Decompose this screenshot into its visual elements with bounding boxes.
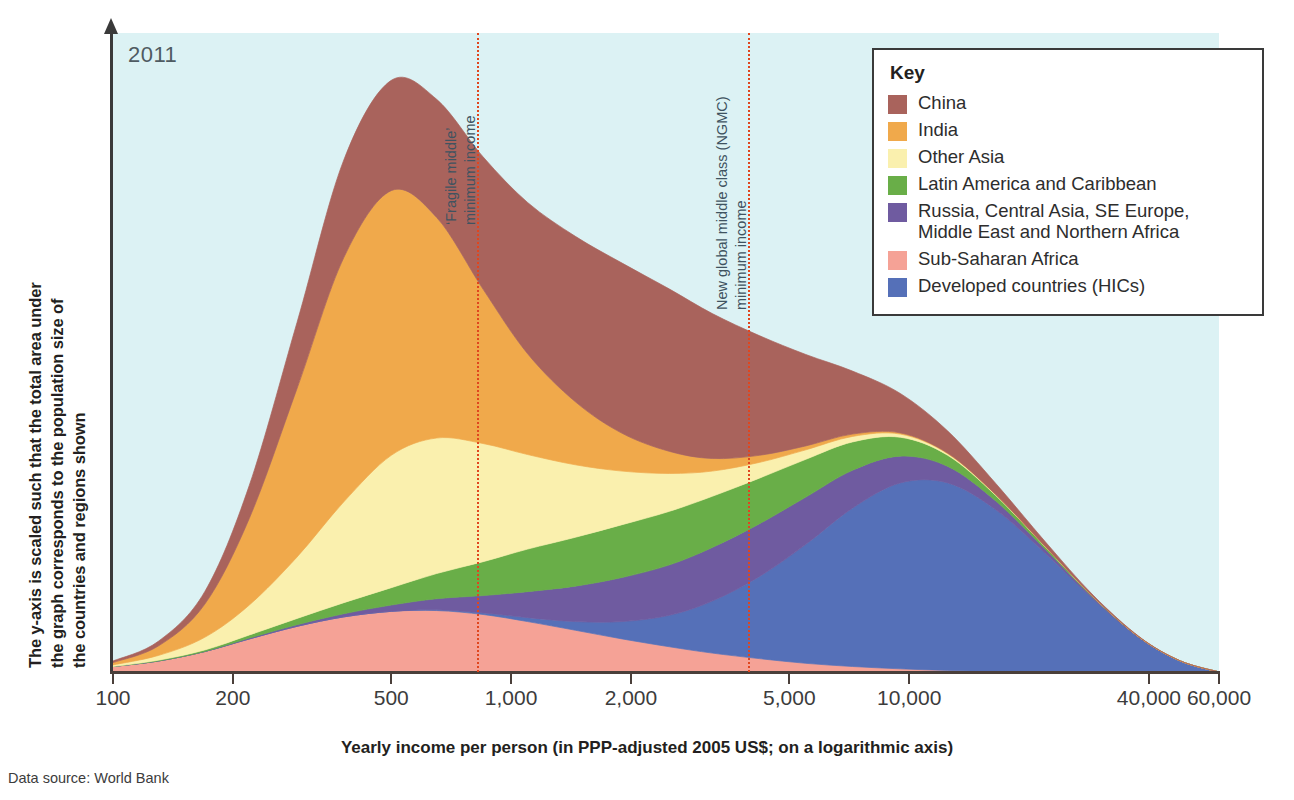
legend-item-label: Latin America and Caribbean [918,173,1157,194]
x-tick-200 [232,674,234,684]
legend-swatch-icon [888,278,907,297]
legend-item[interactable]: China [888,92,1250,114]
x-axis-line [110,671,1220,674]
legend-rows: ChinaIndiaOther AsiaLatin America and Ca… [888,92,1250,297]
source-note: Data source: World Bank [8,770,169,786]
x-tick-2000 [630,674,632,684]
x-tick-label-1000: 1,000 [485,686,538,710]
legend-swatch-icon [888,95,907,114]
x-tick-100 [112,674,114,684]
legend-item[interactable]: Sub-Saharan Africa [888,248,1250,270]
x-tick-5000 [788,674,790,684]
x-tick-label-40000: 40,000 [1117,686,1181,710]
threshold-line-ngmc [748,33,750,672]
x-tick-label-200: 200 [215,686,250,710]
legend-item[interactable]: India [888,119,1250,141]
legend-item-label: China [918,92,966,113]
legend-item-label: Developed countries (HICs) [918,275,1145,296]
annotation-ngmc-line-2: minimum income [733,200,749,310]
y-axis-caption-line-1: The y-axis is scaled such that the total… [26,282,45,668]
x-tick-label-60000: 60,000 [1187,686,1251,710]
y-axis-caption: The y-axis is scaled such that the total… [0,0,100,700]
x-tick-60000 [1218,674,1220,684]
x-tick-10000 [908,674,910,684]
y-axis-caption-line-2: the graph corresponds to the population … [48,299,67,668]
x-tick-500 [390,674,392,684]
x-tick-40000 [1148,674,1150,684]
legend-item[interactable]: Developed countries (HICs) [888,275,1250,297]
legend-item[interactable]: Latin America and Caribbean [888,173,1250,195]
legend-item-label: India [918,119,958,140]
legend-swatch-icon [888,176,907,195]
legend-swatch-icon [888,149,907,168]
x-tick-label-2000: 2,000 [605,686,658,710]
x-tick-1000 [510,674,512,684]
legend-item[interactable]: Russia, Central Asia, SE Europe, Middle … [888,200,1250,243]
legend-box: Key ChinaIndiaOther AsiaLatin America an… [872,48,1264,316]
y-axis-caption-line-3: the countries and regions shown [70,413,89,668]
legend-item-label: Sub-Saharan Africa [918,248,1078,269]
chart-figure: The y-axis is scaled such that the total… [0,0,1294,800]
legend-swatch-icon [888,122,907,141]
year-badge: 2011 [128,42,177,68]
annotation-fragile-middle-line-2: minimum income [462,115,478,225]
legend-item-label: Other Asia [918,146,1004,167]
x-tick-label-5000: 5,000 [763,686,816,710]
x-tick-label-500: 500 [374,686,409,710]
y-axis-line [110,30,113,674]
legend-item[interactable]: Other Asia [888,146,1250,168]
legend-item-label: Russia, Central Asia, SE Europe, Middle … [918,200,1189,243]
legend-title: Key [890,62,1250,84]
legend-swatch-icon [888,251,907,270]
x-tick-label-100: 100 [95,686,130,710]
legend-swatch-icon [888,203,907,222]
annotation-fragile-middle-line-1: ‘Fragile middle’ [443,127,459,225]
x-tick-label-10000: 10,000 [877,686,941,710]
annotation-ngmc-line-1: New global middle class (NGMC) [714,96,730,310]
x-axis-title: Yearly income per person (in PPP-adjuste… [0,738,1294,758]
